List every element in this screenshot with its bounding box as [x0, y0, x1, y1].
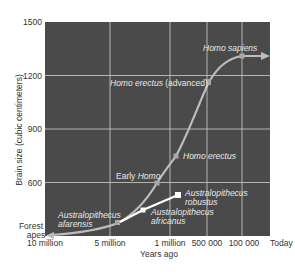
y-tick-1500: 1500 — [23, 17, 42, 27]
marker-africanus — [141, 208, 146, 213]
y-axis-title: Brain size (cubic centimeters) — [14, 74, 24, 186]
annotation-homo-erectus: Homo erectus — [183, 151, 237, 161]
marker-robustus — [175, 192, 181, 198]
x-tick-100000: 100 000 — [229, 238, 260, 248]
marker-early-homo — [155, 181, 160, 186]
brain-size-chart: 1500 1200 900 600 Brain size (cubic cent… — [0, 0, 295, 275]
x-axis-title: Years ago — [140, 249, 178, 259]
marker-homo-erectus — [174, 154, 179, 159]
x-tick-today: Today — [270, 238, 293, 248]
marker-homo-sapiens — [240, 54, 245, 59]
x-tick-1-million: 1 million — [154, 238, 185, 248]
annotation-homo-sapiens: Homo sapiens — [203, 43, 258, 53]
annotation-homo-erectus-advanced: Homo erectus (advanced) — [110, 78, 208, 88]
x-tick-5-million: 5 million — [94, 238, 125, 248]
y-tick-1200: 1200 — [23, 71, 42, 81]
forest-apes-label-2: apes — [27, 230, 45, 240]
marker-afarensis — [115, 220, 120, 225]
annotation-early-homo: Early Homo — [116, 171, 161, 181]
y-tick-600: 600 — [28, 178, 42, 188]
x-tick-500000: 500 000 — [192, 238, 223, 248]
y-tick-900: 900 — [28, 124, 42, 134]
